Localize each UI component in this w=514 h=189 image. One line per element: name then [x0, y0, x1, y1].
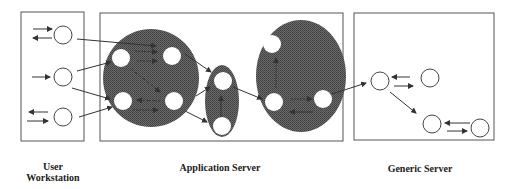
- generic-node-3: [423, 115, 441, 133]
- app-node-8: [265, 93, 283, 111]
- app-node-2: [163, 47, 181, 65]
- user-node-3: [54, 108, 72, 126]
- generic-node-2: [421, 69, 439, 87]
- app-node-1: [112, 49, 130, 67]
- label-line: Application Server: [160, 162, 280, 173]
- user-workstation-box: [21, 12, 84, 141]
- generic-node-1: [371, 72, 389, 90]
- application-server-label: Application Server: [160, 162, 280, 173]
- user-workstation-label: User Workstation: [20, 161, 86, 183]
- app-node-4: [165, 92, 183, 110]
- generic-server-label: Generic Server: [370, 163, 470, 174]
- label-line: User: [20, 161, 86, 172]
- label-line: Generic Server: [370, 163, 470, 174]
- app-node-9: [314, 90, 332, 108]
- label-line: Workstation: [20, 172, 86, 183]
- generic-node-4: [471, 119, 489, 137]
- app-node-5: [214, 72, 232, 90]
- process-cluster-1: [103, 29, 199, 127]
- user-node-2: [54, 68, 72, 86]
- app-node-7: [263, 35, 281, 53]
- app-node-6: [213, 117, 231, 135]
- app-node-3: [114, 92, 132, 110]
- user-node-1: [54, 26, 72, 44]
- arrows: [27, 29, 470, 131]
